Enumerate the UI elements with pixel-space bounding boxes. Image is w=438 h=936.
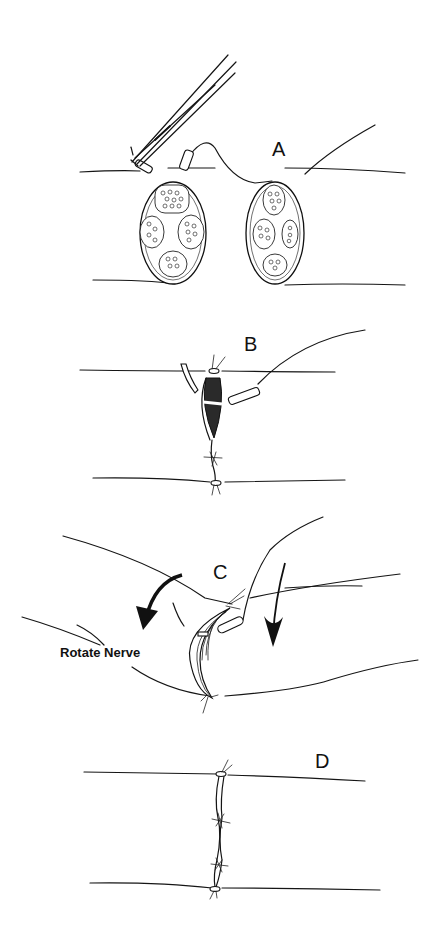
rotate-arrow-left-icon (136, 575, 182, 630)
nerve-stump-right-icon (246, 182, 304, 284)
nerve-stump-left-icon (140, 182, 206, 284)
panel-label-d: D (315, 750, 329, 773)
panel-label-a: A (272, 138, 285, 161)
panel-label-c: C (213, 561, 227, 584)
rotate-arrow-down-icon (264, 563, 285, 647)
nerve-repair-illustration: A B C Rotate Nerve D (0, 0, 438, 936)
panel-c-drawing (22, 517, 418, 713)
panel-b-drawing (80, 330, 365, 495)
needle-holder-icon (131, 55, 236, 166)
rotate-nerve-annotation: Rotate Nerve (60, 645, 140, 660)
panel-d-drawing (84, 760, 380, 899)
panel-label-b: B (244, 333, 257, 356)
illustration-canvas (0, 0, 438, 936)
panel-a-drawing (80, 55, 405, 285)
